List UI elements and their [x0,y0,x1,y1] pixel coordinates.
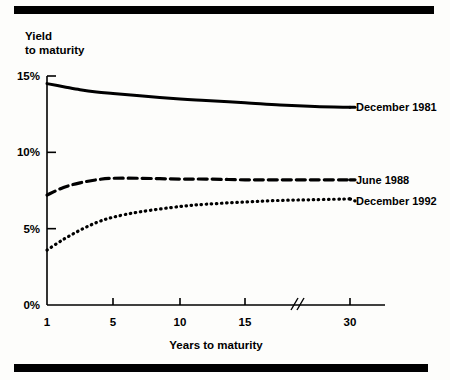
x-tick-label: 15 [239,316,252,328]
y-tick-label: 15% [17,70,40,82]
figure-container: Yield to maturity 0%5%10%15% 15101530 De… [0,0,450,380]
series-label-connector [350,199,355,201]
axis-break-mark [291,298,304,310]
y-tick-label: 10% [17,146,40,158]
x-axis-ticks: 15101530 [44,298,357,328]
y-tick-label: 0% [23,299,40,311]
x-tick-label: 10 [174,316,187,328]
y-axis-ticks: 0%5%10%15% [17,70,56,311]
series-labels-group: December 1981June 1988December 1992 [356,101,437,207]
x-tick-label: 1 [44,316,51,328]
y-axis-title-line1: Yield [25,30,52,42]
x-axis-title: Years to maturity [169,339,263,351]
series-line-solid [47,84,350,108]
series-label: December 1981 [356,101,437,113]
data-series-group [47,84,355,250]
series-line-dashed [47,178,350,195]
y-axis-title-line2: to maturity [25,44,85,56]
series-line-dotted [47,199,350,250]
x-tick-label: 30 [344,316,357,328]
series-label: June 1988 [356,174,409,186]
series-label: December 1992 [356,195,437,207]
x-tick-label: 5 [110,316,117,328]
yield-curve-chart: Yield to maturity 0%5%10%15% 15101530 De… [0,0,450,380]
y-tick-label: 5% [23,223,40,235]
